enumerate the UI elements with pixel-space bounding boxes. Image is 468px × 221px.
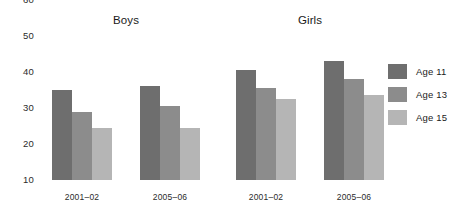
legend-item: Age 13 — [388, 83, 447, 106]
legend-swatch-icon — [388, 110, 407, 125]
bar — [344, 79, 364, 180]
y-axis-tick-label: 20 — [0, 139, 34, 149]
bar — [180, 128, 200, 180]
bar — [140, 86, 160, 180]
x-axis-tick-label: 2001–02 — [65, 192, 100, 202]
y-axis-tick-label: 40 — [0, 67, 34, 77]
legend-item: Age 11 — [388, 60, 447, 83]
bar — [364, 95, 384, 180]
plot-area: 2001–022005–06Boys2001–022005–06Girls — [40, 0, 380, 180]
legend-swatch-icon — [388, 87, 407, 102]
panel-title: Boys — [113, 14, 139, 26]
legend-item: Age 15 — [388, 106, 447, 129]
bar — [52, 90, 72, 180]
x-axis-tick-label: 2005–06 — [153, 192, 188, 202]
bar — [236, 70, 256, 180]
x-axis-tick-label: 2005–06 — [337, 192, 372, 202]
legend-swatch-icon — [388, 64, 407, 79]
bar — [256, 88, 276, 180]
bar — [72, 112, 92, 180]
bar — [160, 106, 180, 180]
y-axis-tick-label: 50 — [0, 31, 34, 41]
panel-title: Girls — [298, 14, 322, 26]
y-axis-tick-label: 10 — [0, 175, 34, 185]
bar — [276, 99, 296, 180]
legend-label: Age 11 — [416, 66, 447, 77]
bar — [92, 128, 112, 180]
bar — [324, 61, 344, 180]
x-axis-tick-label: 2001–02 — [249, 192, 284, 202]
bar-chart: 102030405060 2001–022005–06Boys2001–0220… — [0, 0, 468, 221]
legend-label: Age 15 — [416, 112, 447, 123]
chart-legend: Age 11Age 13Age 15 — [388, 60, 447, 129]
legend-label: Age 13 — [416, 89, 447, 100]
y-axis-tick-label: 30 — [0, 103, 34, 113]
y-axis-tick-label: 60 — [0, 0, 34, 5]
